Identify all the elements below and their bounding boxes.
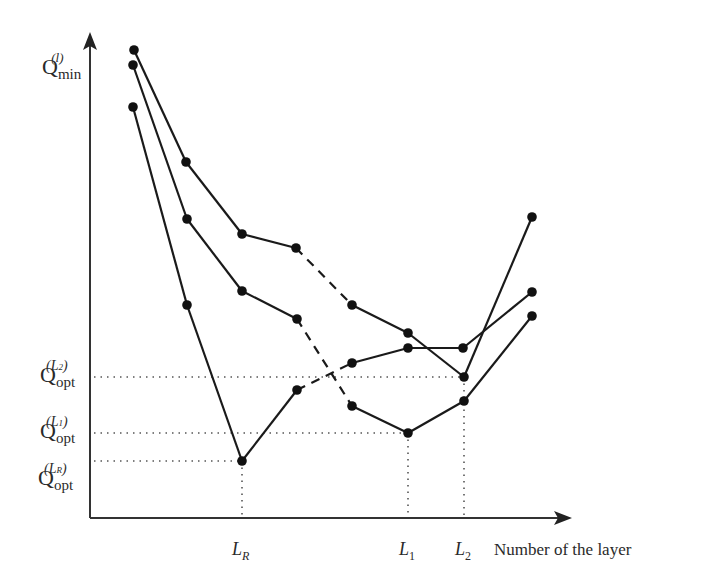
data-point (182, 300, 192, 310)
line-segment (133, 107, 187, 305)
y-axis-label: Qmin(l) (42, 56, 94, 78)
data-point (459, 396, 469, 406)
chart-plot (0, 0, 702, 575)
x-axis-title: Number of the layer (494, 541, 631, 558)
line-segment (242, 234, 296, 248)
opt-close: ) (63, 358, 68, 373)
line-segment (242, 390, 297, 461)
opt-sup: (L (46, 358, 58, 373)
data-point (527, 212, 537, 222)
data-point (347, 300, 357, 310)
line-segment (187, 305, 242, 461)
line-segment (352, 348, 408, 363)
x-tick-sub: 1 (409, 549, 415, 563)
data-point (347, 358, 357, 368)
data-point (237, 456, 247, 466)
data-point (347, 401, 357, 411)
data-point (527, 311, 537, 321)
line-segment (186, 162, 242, 234)
data-point (129, 45, 139, 55)
data-point (237, 229, 247, 239)
opt-sup: (L (46, 414, 58, 429)
series-group (128, 45, 537, 466)
line-segment (464, 316, 532, 401)
line-segment (187, 219, 242, 291)
line-segment (133, 65, 187, 219)
opt-sub: opt (56, 430, 75, 446)
line-segment (242, 291, 297, 319)
data-point (182, 214, 192, 224)
x-tick-sub: 2 (465, 549, 471, 563)
data-point (292, 314, 302, 324)
y-tick-opt-L2: Qopt(L2) (40, 364, 97, 386)
data-point (181, 157, 191, 167)
x-tick-LR: LR (232, 540, 249, 558)
opt-sup: (L (44, 461, 56, 476)
data-point (458, 343, 468, 353)
data-point (403, 343, 413, 353)
data-point (237, 286, 247, 296)
line-segment (408, 333, 464, 377)
opt-close: ) (63, 414, 68, 429)
x-tick-main: L (232, 539, 242, 559)
x-tick-main: L (455, 539, 465, 559)
data-point (292, 385, 302, 395)
line-segment (352, 406, 408, 433)
data-point (527, 287, 537, 297)
data-point (403, 328, 413, 338)
x-tick-sub: R (242, 549, 249, 563)
opt-sub: opt (56, 374, 75, 390)
data-point (403, 428, 413, 438)
opt-sub: opt (54, 477, 73, 493)
dashed-segment (296, 248, 352, 305)
dashed-segment (297, 363, 352, 390)
data-point (128, 102, 138, 112)
x-tick-main: L (399, 539, 409, 559)
data-point (291, 243, 301, 253)
y-label-sub: min (58, 66, 81, 82)
reference-lines (94, 377, 464, 516)
data-point (128, 60, 138, 70)
series-curve-1 (129, 45, 537, 382)
line-segment (352, 305, 408, 333)
line-segment (408, 401, 464, 433)
y-tick-opt-L1: Qopt(L1) (40, 420, 97, 442)
y-tick-opt-LR: Qopt(LR) (38, 467, 96, 489)
x-tick-L2: L2 (455, 540, 471, 558)
series-curve-2 (128, 60, 537, 438)
opt-close: ) (62, 461, 67, 476)
line-segment (464, 217, 532, 377)
x-tick-L1: L1 (399, 540, 415, 558)
y-label-sup: (l) (51, 50, 63, 65)
data-point (459, 372, 469, 382)
dashed-segment (297, 319, 352, 406)
